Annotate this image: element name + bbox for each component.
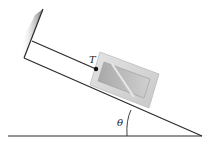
rope [32,41,96,69]
angle-arc [127,110,131,136]
block [90,52,159,108]
angle-label: θ [117,117,123,128]
attachment-point [94,67,98,71]
incline-diagram: T θ [0,0,213,151]
tension-label: T [89,54,97,65]
